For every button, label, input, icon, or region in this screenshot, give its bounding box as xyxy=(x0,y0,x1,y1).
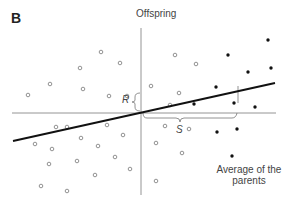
regression-line xyxy=(13,83,275,141)
open-circle-point xyxy=(93,173,97,177)
filled-dot-point xyxy=(226,53,229,56)
s-label: S xyxy=(176,124,183,135)
open-circle-point xyxy=(81,87,85,91)
open-circle-point xyxy=(96,144,100,148)
scatter-plot xyxy=(0,0,292,208)
filled-dot-point xyxy=(253,105,256,108)
open-circle-point xyxy=(149,84,153,88)
open-circle-point xyxy=(187,127,191,131)
filled-dot-point xyxy=(214,85,217,88)
open-circle-point xyxy=(78,66,82,70)
open-circle-point xyxy=(107,94,111,98)
open-circle-point xyxy=(47,162,51,166)
r-label: R xyxy=(122,94,129,105)
filled-dot-point xyxy=(215,130,218,133)
filled-dot-point xyxy=(192,102,195,105)
filled-dot-point xyxy=(266,38,269,41)
open-circle-point xyxy=(173,53,177,57)
s-bracket xyxy=(143,113,237,122)
open-circle-point xyxy=(118,61,122,65)
open-circle-point xyxy=(154,179,158,183)
open-circle-point xyxy=(113,155,117,159)
open-circle-point xyxy=(50,147,54,151)
open-points-group xyxy=(26,50,198,193)
filled-dot-point xyxy=(232,101,235,104)
open-circle-point xyxy=(33,142,37,146)
open-circle-point xyxy=(177,91,181,95)
open-circle-point xyxy=(54,125,58,129)
filled-dot-point xyxy=(246,70,249,73)
open-circle-point xyxy=(26,93,30,97)
open-circle-point xyxy=(154,141,158,145)
filled-dot-point xyxy=(269,66,272,69)
open-circle-point xyxy=(75,159,79,163)
open-circle-point xyxy=(194,62,198,66)
open-circle-point xyxy=(180,151,184,155)
filled-dot-point xyxy=(230,154,233,157)
open-circle-point xyxy=(121,133,125,137)
open-circle-point xyxy=(128,167,132,171)
open-circle-point xyxy=(99,50,103,54)
open-circle-point xyxy=(79,136,83,140)
open-circle-point xyxy=(105,123,109,127)
r-bracket xyxy=(132,93,140,111)
open-circle-point xyxy=(163,124,167,128)
open-circle-point xyxy=(65,189,69,193)
open-circle-point xyxy=(48,82,52,86)
filled-dot-point xyxy=(235,127,238,130)
open-circle-point xyxy=(39,184,43,188)
